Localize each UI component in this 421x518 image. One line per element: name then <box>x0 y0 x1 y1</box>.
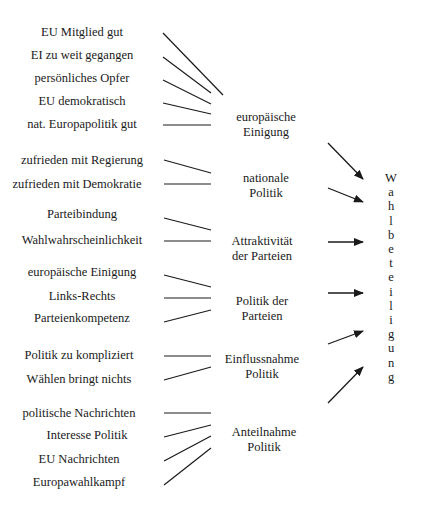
construct-label: Einflussnahme Politik <box>225 352 299 382</box>
target-letter: g <box>384 370 398 384</box>
factor-label: Europawahlkampf <box>33 475 125 490</box>
target-letter: h <box>384 199 398 213</box>
construct-label-line: nationale <box>243 171 289 186</box>
target-letter: n <box>384 356 398 370</box>
connector-line <box>163 80 211 104</box>
factor-label: Parteienkompetenz <box>34 311 130 326</box>
target-letter: b <box>384 228 398 242</box>
target-letter: g <box>384 327 398 341</box>
arrow-right-icon <box>328 367 363 403</box>
connector-line <box>164 218 211 230</box>
construct-label: europäische Einigung <box>236 110 296 140</box>
factor-label: zufrieden mit Demokratie <box>12 177 141 192</box>
factor-label: Links-Rechts <box>49 289 116 304</box>
factor-label: persönliches Opfer <box>35 71 130 86</box>
factor-label: Parteibindung <box>47 207 117 222</box>
factor-label: politische Nachrichten <box>23 406 136 421</box>
target-letter: l <box>384 214 398 228</box>
connector-line <box>164 275 211 287</box>
connector-line <box>164 310 211 322</box>
construct-label: nationale Politik <box>243 171 289 201</box>
arrow-right-icon <box>328 331 363 344</box>
target-letter: i <box>384 285 398 299</box>
target-letter: e <box>384 270 398 284</box>
construct-label-line: Politik der <box>236 294 288 309</box>
target-letter: i <box>384 313 398 327</box>
construct-label: Attraktivität der Parteien <box>231 234 292 264</box>
factor-label: Wählen bringt nichts <box>27 372 132 387</box>
construct-label-line: Einigung <box>236 125 296 140</box>
construct-label-line: Politik <box>232 440 297 455</box>
arrow-right-icon <box>328 188 363 202</box>
factor-label: EU demokratisch <box>38 94 125 109</box>
connector-line <box>164 160 211 173</box>
connector-line <box>163 103 211 114</box>
arrow-right-icon <box>328 143 363 179</box>
target-letter: u <box>384 341 398 355</box>
construct-label-line: Einflussnahme <box>225 352 299 367</box>
factor-label: Politik zu kompliziert <box>24 348 133 363</box>
factor-label: europäische Einigung <box>28 265 137 280</box>
diagram-canvas: EU Mitglied gut EI zu weit gegangen pers… <box>0 0 421 518</box>
connector-line <box>164 448 211 485</box>
factor-label: nat. Europapolitik gut <box>27 117 136 132</box>
construct-label: Anteilnahme Politik <box>232 425 297 455</box>
target-letter: l <box>384 299 398 313</box>
factor-label: Interesse Politik <box>47 428 128 443</box>
target-letter: e <box>384 242 398 256</box>
connector-line <box>164 425 211 437</box>
factor-label: Wahlwahrscheinlichkeit <box>22 233 142 248</box>
factor-label: EI zu weit gegangen <box>31 48 133 63</box>
factor-label: EU Mitglied gut <box>41 25 123 40</box>
construct-label-line: der Parteien <box>231 249 292 264</box>
construct-label-line: Politik <box>225 367 299 382</box>
construct-label-line: Anteilnahme <box>232 425 297 440</box>
connector-line <box>164 436 211 461</box>
construct-label: Politik der Parteien <box>236 294 288 324</box>
target-label-wahlbeteiligung: Wahlbeteiligung <box>384 171 398 384</box>
construct-label-line: Attraktivität <box>231 234 292 249</box>
construct-label-line: europäische <box>236 110 296 125</box>
connector-line <box>164 367 211 380</box>
target-letter: t <box>384 256 398 270</box>
factor-label: zufrieden mit Regierung <box>21 153 143 168</box>
target-letter: W <box>384 171 398 185</box>
factor-label: EU Nachrichten <box>39 452 120 467</box>
construct-label-line: Parteien <box>236 309 288 324</box>
construct-label-line: Politik <box>243 186 289 201</box>
target-letter: a <box>384 185 398 199</box>
